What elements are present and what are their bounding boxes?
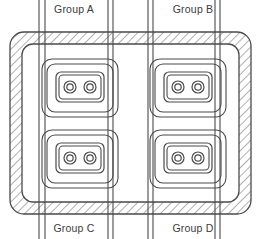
outlet-b-1-inner-ring-icon[interactable]	[175, 84, 181, 90]
label-group-c: Group C	[53, 222, 94, 234]
outlet-d-1-inner-ring-icon[interactable]	[175, 155, 181, 161]
label-group-d: Group D	[172, 222, 213, 234]
receptacle-group-d-faceplate[interactable]	[164, 143, 212, 173]
outlet-c-2-inner-ring-icon[interactable]	[87, 155, 93, 161]
label-group-b: Group B	[173, 3, 214, 15]
receptacle-group-b-faceplate[interactable]	[164, 72, 212, 102]
label-group-a: Group A	[54, 3, 94, 15]
receptacle-group-a-faceplate[interactable]	[56, 72, 104, 102]
outlet-a-1-inner-ring-icon[interactable]	[67, 84, 73, 90]
diagram-canvas: Group AGroup BGroup CGroup D	[0, 0, 261, 239]
outlet-d-2-inner-ring-icon[interactable]	[195, 155, 201, 161]
receptacle-layout-diagram: Group AGroup BGroup CGroup D	[0, 0, 261, 239]
receptacle-group-c-faceplate[interactable]	[56, 143, 104, 173]
outlet-a-2-inner-ring-icon[interactable]	[87, 84, 93, 90]
outlet-c-1-inner-ring-icon[interactable]	[67, 155, 73, 161]
outlet-b-2-inner-ring-icon[interactable]	[195, 84, 201, 90]
